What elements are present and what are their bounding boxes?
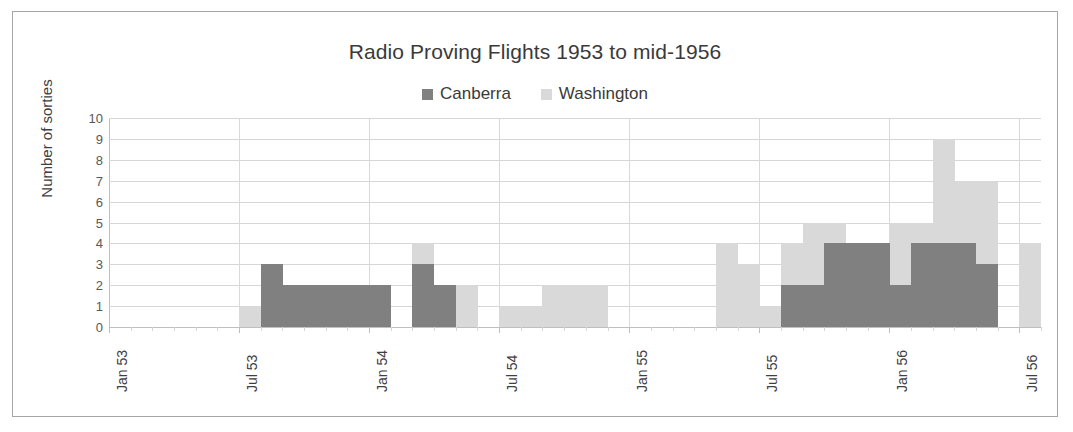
bar-washington-16: [456, 285, 478, 327]
y-tick-label-5: 5: [73, 216, 103, 229]
x-tick-17: [477, 327, 478, 331]
y-tick-label-7: 7: [73, 174, 103, 187]
x-tick-15: [434, 327, 435, 331]
x-tick-24: [629, 327, 630, 333]
bar-canberra-38: [933, 243, 955, 327]
y-axis-title: Number of sorties: [38, 44, 55, 234]
x-tick-5: [217, 327, 218, 331]
legend-swatch-canberra: [422, 89, 433, 100]
bar-canberra-15: [434, 285, 456, 327]
bar-washington-42: [1019, 243, 1041, 327]
legend-item-washington: Washington: [541, 84, 648, 104]
bar-series-container: [109, 118, 1041, 327]
bar-canberra-8: [282, 285, 304, 327]
x-tick-20: [542, 327, 543, 331]
x-axis-ticks: [109, 327, 1041, 335]
x-tick-19: [521, 327, 522, 331]
x-tick-13: [391, 327, 392, 331]
bar-washington-28: [716, 243, 738, 327]
y-tick-label-4: 4: [73, 237, 103, 250]
bar-washington-29: [738, 264, 760, 327]
x-tick-3: [174, 327, 175, 331]
y-tick-label-2: 2: [73, 279, 103, 292]
x-tick-8: [282, 327, 283, 331]
x-tick-23: [608, 327, 609, 331]
x-tick-25: [651, 327, 652, 331]
x-tick-26: [673, 327, 674, 331]
x-tick-1: [131, 327, 132, 331]
y-tick-label-10: 10: [73, 112, 103, 125]
x-tick-18: [499, 327, 500, 333]
chart-title: Radio Proving Flights 1953 to mid-1956: [13, 40, 1057, 64]
x-tick-4: [196, 327, 197, 331]
x-tick-27: [694, 327, 695, 331]
x-tick-22: [586, 327, 587, 331]
bar-canberra-34: [846, 243, 868, 327]
y-tick-label-9: 9: [73, 132, 103, 145]
x-tick-16: [456, 327, 457, 331]
y-tick-label-1: 1: [73, 300, 103, 313]
chart-figure: Radio Proving Flights 1953 to mid-1956 C…: [12, 11, 1058, 417]
bar-washington-19: [521, 306, 543, 327]
x-tick-39: [954, 327, 955, 331]
bar-canberra-10: [326, 285, 348, 327]
x-tick-35: [868, 327, 869, 331]
bar-canberra-39: [954, 243, 976, 327]
x-tick-33: [824, 327, 825, 331]
x-tick-label-jan-56: Jan 56: [895, 350, 909, 392]
bar-canberra-37: [911, 243, 933, 327]
legend-label-washington: Washington: [559, 84, 648, 104]
x-tick-36: [889, 327, 890, 333]
bar-washington-18: [499, 306, 521, 327]
bar-washington-30: [759, 306, 781, 327]
legend-item-canberra: Canberra: [422, 84, 511, 104]
x-tick-label-jan-54: Jan 54: [375, 350, 389, 392]
x-tick-10: [326, 327, 327, 331]
x-tick-38: [933, 327, 934, 331]
x-tick-31: [781, 327, 782, 331]
x-tick-40: [976, 327, 977, 331]
x-tick-43: [1041, 327, 1042, 331]
chart-legend: Canberra Washington: [13, 84, 1057, 104]
x-tick-2: [152, 327, 153, 331]
bar-canberra-31: [781, 285, 803, 327]
x-tick-9: [304, 327, 305, 331]
x-tick-30: [759, 327, 760, 333]
x-tick-37: [911, 327, 912, 331]
legend-label-canberra: Canberra: [440, 84, 511, 104]
bar-washington-21: [564, 285, 586, 327]
x-tick-label-jul-53: Jul 53: [245, 355, 259, 392]
bar-canberra-7: [261, 264, 283, 327]
x-tick-21: [564, 327, 565, 331]
plot-area: [109, 118, 1041, 327]
x-tick-14: [412, 327, 413, 331]
y-tick-label-0: 0: [73, 321, 103, 334]
x-tick-41: [998, 327, 999, 331]
legend-swatch-washington: [541, 89, 552, 100]
x-tick-28: [716, 327, 717, 331]
y-tick-label-6: 6: [73, 195, 103, 208]
y-tick-label-8: 8: [73, 153, 103, 166]
x-tick-32: [803, 327, 804, 331]
x-tick-42: [1019, 327, 1020, 333]
bar-canberra-33: [824, 243, 846, 327]
x-tick-7: [261, 327, 262, 331]
x-tick-label-jan-55: Jan 55: [635, 350, 649, 392]
x-tick-label-jan-53: Jan 53: [115, 350, 129, 392]
y-axis-tick-labels: 012345678910: [73, 118, 103, 327]
bar-canberra-9: [304, 285, 326, 327]
x-tick-0: [109, 327, 110, 333]
x-tick-12: [369, 327, 370, 333]
x-tick-label-jul-55: Jul 55: [765, 355, 779, 392]
y-tick-label-3: 3: [73, 258, 103, 271]
bar-washington-6: [239, 306, 261, 327]
bar-canberra-12: [369, 285, 391, 327]
x-tick-11: [347, 327, 348, 331]
bar-washington-20: [542, 285, 564, 327]
bar-canberra-32: [803, 285, 825, 327]
x-tick-6: [239, 327, 240, 333]
bar-canberra-36: [889, 285, 911, 327]
bar-canberra-14: [412, 264, 434, 327]
bar-canberra-40: [976, 264, 998, 327]
x-tick-label-jul-54: Jul 54: [505, 355, 519, 392]
